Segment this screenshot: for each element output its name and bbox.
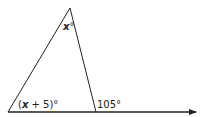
triangle-left-side (8, 8, 70, 112)
apex-angle-label: x° (62, 21, 74, 32)
left-base-angle-label: (x + 5)° (18, 99, 58, 110)
triangle-diagram: x° (x + 5)° 105° (0, 0, 203, 117)
exterior-angle-label: 105° (97, 99, 121, 110)
